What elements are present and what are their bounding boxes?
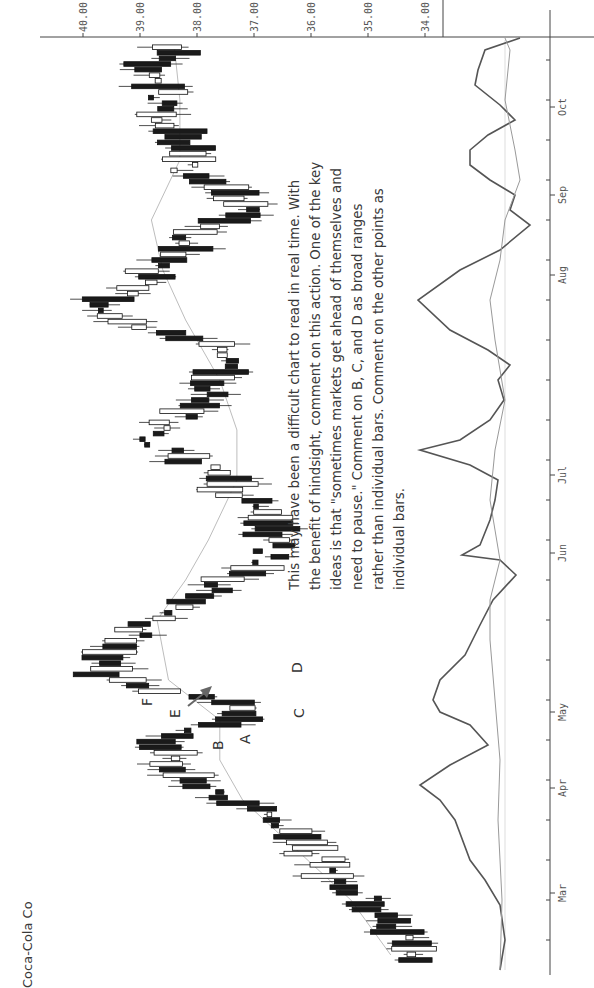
candle (158, 107, 174, 112)
point-label-c: C (291, 708, 307, 718)
candle (225, 364, 237, 369)
oscillator-panel (418, 38, 530, 970)
candle (124, 62, 171, 67)
candle (192, 375, 235, 380)
candle (216, 493, 243, 498)
candle (166, 336, 203, 341)
candle (135, 67, 162, 72)
candle (186, 594, 214, 599)
candle (153, 616, 175, 621)
candle (189, 179, 225, 184)
candle (212, 700, 255, 705)
candle (301, 874, 353, 879)
price-tick-label: 37.00 (249, 2, 260, 32)
point-label-e: E (167, 709, 183, 718)
candle (247, 207, 260, 212)
candle (180, 779, 206, 784)
candle (155, 123, 174, 128)
candle (152, 45, 181, 50)
candle (192, 398, 209, 403)
candle (173, 230, 217, 235)
candle (82, 297, 134, 302)
candle (204, 185, 249, 190)
candle (208, 471, 230, 476)
candle (274, 835, 321, 840)
candle (91, 667, 133, 672)
candle (253, 549, 262, 554)
candle (186, 415, 197, 420)
candle (162, 101, 177, 106)
candle (334, 879, 345, 884)
candle (109, 678, 146, 683)
candle (146, 280, 157, 285)
candle (159, 56, 175, 61)
candle (171, 168, 177, 173)
candle (128, 291, 139, 296)
candle (163, 773, 214, 778)
candle (128, 622, 150, 627)
candle (139, 275, 175, 280)
candle (198, 219, 250, 224)
candle (126, 683, 148, 688)
candle (185, 728, 191, 733)
candle (336, 891, 357, 896)
candle (153, 431, 164, 436)
point-label-a: A (237, 734, 253, 744)
candle (165, 459, 202, 464)
candle (161, 734, 193, 739)
candle (212, 588, 232, 593)
candle (160, 409, 204, 414)
point-label-f: F (139, 698, 155, 706)
candle (173, 235, 186, 240)
candle (195, 387, 210, 392)
candle (226, 359, 238, 364)
candle (224, 202, 268, 207)
candle (399, 958, 432, 963)
candle (98, 308, 103, 313)
candle (248, 807, 277, 812)
candle (73, 672, 119, 677)
candle (280, 829, 312, 834)
candle (211, 465, 220, 470)
annotation-text: This may have been a difficult chart to … (284, 160, 410, 590)
candle (392, 947, 437, 952)
candle (231, 566, 284, 571)
candle (157, 140, 189, 145)
candle (170, 151, 206, 156)
candle (154, 751, 197, 756)
candle (374, 896, 381, 901)
date-tick-label: Apr (557, 779, 568, 797)
candle (167, 599, 205, 604)
candle (183, 174, 209, 179)
price-tick-label: 36.00 (306, 2, 317, 32)
candle (151, 118, 162, 123)
candle (229, 571, 265, 576)
candle (206, 476, 251, 481)
date-tick-label: Jun (557, 544, 568, 562)
price-tick-label: 40.00 (78, 2, 89, 32)
chart-title-text: Coca-Cola Co (20, 868, 35, 988)
candle (137, 112, 176, 117)
date-tick-label: Sep (557, 186, 568, 204)
candle (204, 583, 217, 588)
candle (287, 840, 328, 845)
candle (158, 247, 212, 252)
candle (159, 767, 185, 772)
candle (156, 331, 185, 336)
candle (352, 907, 381, 912)
candle (132, 84, 185, 89)
price-tick-label: 35.00 (363, 2, 374, 32)
candle (140, 745, 182, 750)
candle (254, 510, 282, 515)
candle (172, 448, 183, 453)
candle (392, 941, 431, 946)
candle (165, 611, 172, 616)
candle (197, 487, 243, 492)
candle (149, 420, 169, 425)
chart-title: Coca-Cola Co (20, 930, 70, 988)
candle (214, 196, 244, 201)
candle (125, 269, 158, 274)
candle (148, 95, 153, 100)
candle (153, 129, 207, 134)
candle (198, 723, 241, 728)
